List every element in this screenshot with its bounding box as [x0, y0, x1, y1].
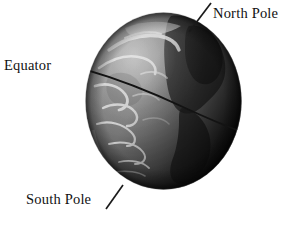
label-equator: Equator [4, 58, 51, 73]
caption-fragment-strip [0, 216, 283, 226]
earth-globe [85, 12, 242, 190]
south-pole-leader-line [103, 183, 127, 211]
globe-diagram-figure: North Pole Equator South Pole [0, 0, 283, 226]
label-north-pole: North Pole [213, 6, 278, 21]
north-pole-leader-line [186, 1, 214, 33]
globe-graphic [85, 12, 242, 190]
label-south-pole: South Pole [26, 192, 91, 207]
limb-darkening [86, 13, 242, 190]
